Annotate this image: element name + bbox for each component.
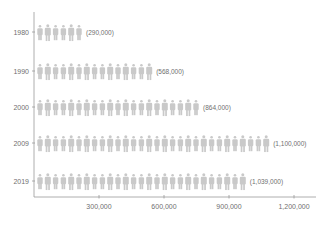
person-icon xyxy=(248,136,253,151)
person-icon xyxy=(45,135,51,152)
person-icon xyxy=(146,135,152,152)
person-icon xyxy=(232,174,237,189)
person-icon xyxy=(131,100,136,115)
person-icon xyxy=(209,136,214,151)
person-icon xyxy=(45,99,51,116)
value-label: (1,039,000) xyxy=(250,178,283,186)
person-icon xyxy=(123,173,129,190)
person-icon xyxy=(45,24,51,41)
person-icon xyxy=(37,136,42,151)
person-icon xyxy=(68,173,74,190)
person-icon xyxy=(209,174,214,189)
person-icon xyxy=(154,136,159,151)
person-icon xyxy=(84,63,90,80)
person-icon xyxy=(170,136,175,151)
person-icon xyxy=(232,136,237,151)
person-icon xyxy=(154,174,159,189)
y-category-label: 1990 xyxy=(13,68,29,75)
person-icon xyxy=(115,100,120,115)
person-icon xyxy=(76,64,81,79)
person-icon xyxy=(217,136,222,151)
y-category-label: 2000 xyxy=(13,104,29,111)
person-icon xyxy=(224,135,230,152)
person-icon xyxy=(217,174,222,189)
person-icon xyxy=(92,136,97,151)
value-label: (568,000) xyxy=(156,68,184,76)
y-category-label: 1980 xyxy=(13,29,29,36)
row-1990: 1990(568,000) xyxy=(13,63,184,80)
x-tick-label: 300,000 xyxy=(86,203,111,210)
person-icon xyxy=(115,64,120,79)
person-icon xyxy=(107,173,113,190)
person-icon xyxy=(107,135,113,152)
person-icon xyxy=(100,174,105,189)
person-icon xyxy=(170,100,175,115)
person-icon xyxy=(162,135,168,152)
person-icon xyxy=(76,136,81,151)
person-icon xyxy=(68,24,74,41)
person-icon xyxy=(37,64,42,79)
x-tick-label: 900,000 xyxy=(216,203,241,210)
person-icon xyxy=(185,99,191,116)
person-icon xyxy=(162,99,168,116)
person-icon xyxy=(61,64,66,79)
person-icon xyxy=(178,136,183,151)
person-icon xyxy=(53,174,58,189)
person-icon xyxy=(61,174,66,189)
person-icon xyxy=(193,174,198,189)
person-icon xyxy=(139,136,144,151)
person-icon xyxy=(170,174,175,189)
person-icon xyxy=(45,63,51,80)
person-icon xyxy=(185,173,191,190)
person-icon xyxy=(61,25,66,40)
value-label: (290,000) xyxy=(86,29,114,37)
person-icon xyxy=(131,64,136,79)
person-icon xyxy=(107,99,113,116)
person-icon xyxy=(146,173,152,190)
person-icon xyxy=(84,173,90,190)
person-icon xyxy=(115,136,120,151)
row-2019: 2019(1,039,000) xyxy=(13,173,283,190)
person-icon xyxy=(100,100,105,115)
row-2000: 2000(864,000) xyxy=(13,99,230,116)
person-icon xyxy=(162,173,168,190)
person-icon xyxy=(61,100,66,115)
y-category-label: 2009 xyxy=(13,140,29,147)
person-icon xyxy=(240,173,246,190)
person-icon xyxy=(37,100,42,115)
person-icon xyxy=(68,63,74,80)
person-icon xyxy=(76,25,81,40)
person-icon xyxy=(107,63,113,80)
person-icon xyxy=(139,174,144,189)
person-icon xyxy=(53,64,58,79)
person-icon xyxy=(123,99,129,116)
person-icon xyxy=(53,100,58,115)
person-icon xyxy=(100,136,105,151)
y-category-label: 2019 xyxy=(13,178,29,185)
person-icon xyxy=(68,135,74,152)
person-icon xyxy=(123,63,129,80)
x-tick-label: 600,000 xyxy=(151,203,176,210)
person-icon xyxy=(131,174,136,189)
person-icon xyxy=(201,173,207,190)
person-icon xyxy=(76,174,81,189)
person-icon xyxy=(37,174,42,189)
person-icon xyxy=(146,63,152,80)
person-icon xyxy=(84,135,90,152)
person-icon xyxy=(193,100,198,115)
row-1980: 1980(290,000) xyxy=(13,24,113,41)
person-icon xyxy=(240,135,246,152)
x-tick-label: 1,200,000 xyxy=(278,203,309,210)
person-icon xyxy=(45,173,51,190)
person-icon xyxy=(224,173,230,190)
person-icon xyxy=(178,174,183,189)
person-icon xyxy=(263,135,269,152)
person-icon xyxy=(53,136,58,151)
person-icon xyxy=(154,100,159,115)
person-icon xyxy=(115,174,120,189)
person-icon xyxy=(53,25,58,40)
person-icon xyxy=(139,100,144,115)
value-label: (1,100,000) xyxy=(273,140,306,148)
person-icon xyxy=(139,64,144,79)
person-icon xyxy=(123,135,129,152)
